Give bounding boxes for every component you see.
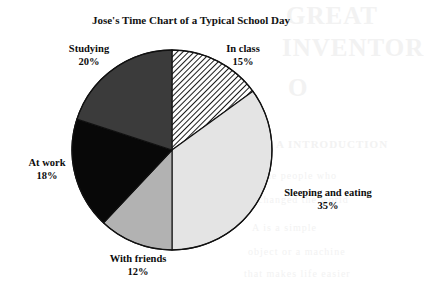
slice-label-studying: Studying 20% <box>46 42 132 69</box>
slice-label-at-work: At work 18% <box>6 156 88 183</box>
slice-label-sleeping-and-eating: Sleeping and eating 35% <box>276 186 380 213</box>
slice-label-studying-name: Studying <box>69 43 109 54</box>
slice-label-sleeping-and-eating-name: Sleeping and eating <box>284 187 372 198</box>
slice-label-in-class: In class 15% <box>200 42 286 69</box>
slice-label-at-work-value: 18% <box>6 169 88 182</box>
slice-label-with-friends-value: 12% <box>86 265 190 278</box>
slice-label-studying-value: 20% <box>46 55 132 68</box>
slice-label-in-class-name: In class <box>226 43 260 54</box>
slice-label-with-friends: With friends 12% <box>86 252 190 279</box>
slice-label-sleeping-and-eating-value: 35% <box>276 199 380 212</box>
slice-label-in-class-value: 15% <box>200 55 286 68</box>
chart-title: Jose's Time Chart of a Typical School Da… <box>0 14 382 26</box>
pie-graphic <box>60 44 284 256</box>
slice-label-with-friends-name: With friends <box>110 253 167 264</box>
slice-label-at-work-name: At work <box>28 157 65 168</box>
